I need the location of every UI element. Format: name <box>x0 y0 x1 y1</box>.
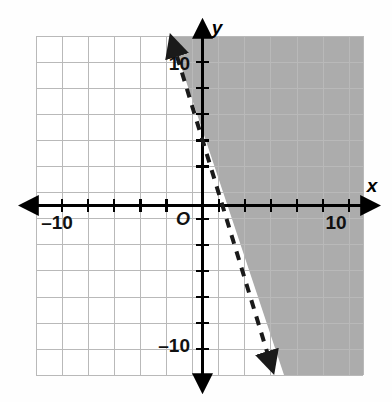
y-axis-label: y <box>211 17 224 38</box>
y-tick-label-ten: 10 <box>169 53 190 74</box>
x-axis-label: x <box>366 175 379 196</box>
x-tick-label-ten: 10 <box>325 212 346 233</box>
x-tick-label-negative-ten: –10 <box>41 212 73 233</box>
y-tick-label-negative-ten: –10 <box>158 335 190 356</box>
coordinate-plane-svg: –10 10 10 –10 O x y <box>0 0 392 402</box>
coordinate-plane-figure: –10 10 10 –10 O x y <box>0 0 392 402</box>
origin-label: O <box>176 209 190 229</box>
